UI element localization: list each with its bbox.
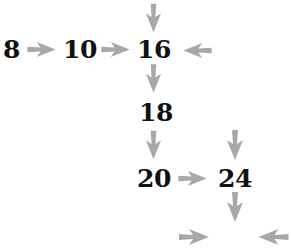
arrow-right-icon [178, 228, 210, 246]
arrow-left-icon [183, 42, 212, 59]
node-20: 20 [137, 166, 171, 191]
arrow-right-icon [27, 41, 56, 58]
arrow-down-icon [145, 130, 162, 160]
arrow-right-icon [101, 41, 130, 58]
node-24: 24 [218, 166, 252, 191]
node-18: 18 [139, 100, 173, 125]
arrow-down-icon [145, 64, 162, 93]
node-16: 16 [137, 37, 171, 62]
arrow-down-icon [145, 3, 162, 33]
node-8: 8 [3, 37, 20, 62]
arrow-right-icon [178, 170, 207, 187]
arrow-left-icon [258, 228, 289, 246]
arrow-down-icon [226, 192, 244, 222]
arrow-down-icon [226, 130, 244, 160]
node-10: 10 [63, 37, 97, 62]
